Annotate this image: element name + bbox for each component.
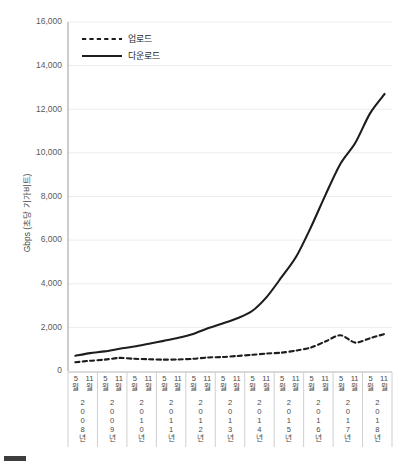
x-axis-year-char: 4 [257,425,261,434]
x-axis-year-char: 1 [169,416,173,425]
x-axis-month-number: 11 [115,374,123,383]
x-axis-month-unit: 월 [102,382,109,392]
x-axis-year-char: 년 [256,433,263,443]
x-axis-year-char: 9 [110,425,114,434]
x-axis-month-number: 11 [321,374,329,383]
x-axis-year-char: 0 [110,407,114,416]
x-axis-month-unit: 월 [308,382,315,392]
x-axis-year-char: 0 [257,407,261,416]
x-axis-year-char: 년 [227,433,234,443]
legend-label-download: 다운로드 [128,51,160,61]
x-axis-year-char: 2 [228,398,232,407]
x-axis-year-char: 1 [316,416,320,425]
x-axis-year-char: 0 [110,416,114,425]
x-axis-year-char: 1 [257,416,261,425]
x-axis-year-char: 년 [315,433,322,443]
y-axis-title: Gbps (초당 기가비트) [22,173,32,252]
y-axis-tick-label: 4,000 [41,278,63,288]
x-axis-month-unit: 월 [367,382,374,392]
x-axis-year-char: 1 [169,425,173,434]
x-axis-month-number: 11 [351,374,359,383]
x-axis-year-char: 0 [198,407,202,416]
x-axis-month-number: 5 [103,374,107,383]
x-axis-month-number: 5 [339,374,343,383]
x-axis-year-char: 2 [375,398,379,407]
x-axis-month-unit: 월 [145,382,152,392]
x-axis-year-char: 8 [375,425,379,434]
x-axis-month-number: 11 [380,374,388,383]
caption-marker [4,456,26,461]
x-axis-year-char: 년 [285,433,292,443]
chart-container: 02,0004,0006,0008,00010,00012,00014,0001… [0,0,402,463]
x-axis-year-char: 년 [138,433,145,443]
gridlines [68,22,392,327]
x-axis-month-number: 11 [233,374,241,383]
x-axis-year-char: 6 [316,425,320,434]
x-axis-year-char: 2 [198,425,202,434]
x-axis-month-unit: 월 [322,382,329,392]
x-axis-year-char: 1 [140,416,144,425]
x-axis-year-char: 0 [81,416,85,425]
x-axis-month-number: 11 [174,374,182,383]
x-axis-month-unit: 월 [115,382,122,392]
x-axis-month-number: 11 [292,374,300,383]
y-axis-tick-label: 12,000 [36,104,62,114]
x-axis-month-unit: 월 [233,382,240,392]
x-axis-year-char: 2 [140,398,144,407]
y-axis-tick-label: 2,000 [41,322,63,332]
x-axis-month-number: 5 [192,374,196,383]
x-axis-year-char: 0 [346,407,350,416]
x-axis-year-char: 년 [197,433,204,443]
x-axis-year-char: 2 [81,398,85,407]
x-axis-year-char: 0 [140,407,144,416]
chart-legend: 업로드 다운로드 [82,34,160,61]
x-axis-month-unit: 월 [292,382,299,392]
x-axis-year-char: 년 [344,433,351,443]
x-axis-month-number: 5 [162,374,166,383]
x-axis-year-char: 0 [228,407,232,416]
x-axis-month-number: 5 [221,374,225,383]
chart-caption [4,456,26,461]
x-axis-month-unit: 월 [249,382,256,392]
x-axis-year-char: 년 [168,433,175,443]
x-axis-year-char: 0 [81,407,85,416]
x-axis-year-char: 년 [109,433,116,443]
y-axis-tick-label: 8,000 [41,191,63,201]
x-axis-month-number: 11 [86,374,94,383]
x-axis-month-number: 5 [309,374,313,383]
line-chart: 02,0004,0006,0008,00010,00012,00014,0001… [0,0,402,463]
x-axis-month-number: 5 [74,374,78,383]
x-axis-year-char: 5 [287,425,291,434]
x-axis-month-unit: 월 [338,382,345,392]
x-axis-month-unit: 월 [204,382,211,392]
x-axis-year-char: 년 [79,433,86,443]
x-axis-year-char: 년 [374,433,381,443]
x-axis-month-number: 5 [280,374,284,383]
x-axis-year-char: 1 [228,416,232,425]
x-axis-year-char: 2 [346,398,350,407]
x-axis-year-char: 8 [81,425,85,434]
x-axis-month-number: 11 [262,374,270,383]
x-axis-year-char: 0 [316,407,320,416]
x-axis-month-unit: 월 [161,382,168,392]
x-axis-month-unit: 월 [174,382,181,392]
x-axis-month-number: 5 [368,374,372,383]
x-axis-year-char: 1 [287,416,291,425]
x-axis-month-number: 11 [203,374,211,383]
x-axis-year-char: 2 [198,398,202,407]
x-axis-year-char: 2 [257,398,261,407]
y-axis-tick-label: 14,000 [36,60,62,70]
y-axis-tick-label: 6,000 [41,234,63,244]
x-axis-year-char: 3 [228,425,232,434]
x-axis-year-char: 2 [316,398,320,407]
x-axis-year-char: 2 [110,398,114,407]
x-axis-month-unit: 월 [381,382,388,392]
x-axis-year-char: 0 [375,407,379,416]
x-axis-year-char: 0 [140,425,144,434]
x-axis-month-unit: 월 [190,382,197,392]
x-axis-year-char: 2 [169,398,173,407]
x-axis-month-unit: 월 [279,382,286,392]
series-line-download [75,94,384,356]
x-axis-month-unit: 월 [131,382,138,392]
y-axis-tick-label: 10,000 [36,147,62,157]
